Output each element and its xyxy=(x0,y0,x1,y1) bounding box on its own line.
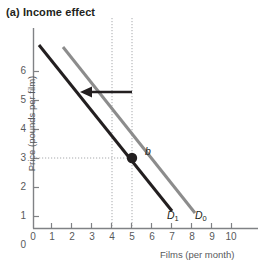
curve-label-d1-subscript: 1 xyxy=(175,214,179,223)
y-tick-label-3: 3 xyxy=(14,152,26,163)
point-b-marker xyxy=(127,153,137,163)
x-tick-label-4: 4 xyxy=(103,231,121,242)
y-tick-label-0: 0 xyxy=(14,239,26,250)
figure-income-effect: (a) Income effect xyxy=(0,0,268,266)
y-tick-label-6: 6 xyxy=(14,65,26,76)
x-tick-label-1: 1 xyxy=(43,231,61,242)
curve-label-d0-text: D xyxy=(195,209,203,221)
y-tick-label-1: 1 xyxy=(14,210,26,221)
x-tick-label-9: 9 xyxy=(203,231,221,242)
curve-label-d0-subscript: 0 xyxy=(203,214,207,223)
y-tick-label-2: 2 xyxy=(14,181,26,192)
point-b-label: b xyxy=(145,145,151,157)
x-axis-title: Films (per month) xyxy=(160,249,234,260)
curve-label-d1-text: D xyxy=(167,209,175,221)
curve-label-d0: D0 xyxy=(195,209,207,223)
demand-curve-d0 xyxy=(63,47,195,213)
x-tick-marks xyxy=(52,223,232,229)
x-tick-label-3: 3 xyxy=(83,231,101,242)
x-tick-label-2: 2 xyxy=(63,231,81,242)
curve-label-d1: D1 xyxy=(167,209,179,223)
y-tick-label-5: 5 xyxy=(14,94,26,105)
y-tick-label-4: 4 xyxy=(14,123,26,134)
shift-arrow xyxy=(80,87,132,98)
x-tick-label-5: 5 xyxy=(123,231,141,242)
x-tick-label-7: 7 xyxy=(163,231,181,242)
x-tick-label-10: 10 xyxy=(222,231,240,242)
y-axis-title: Price (pounds per film) xyxy=(26,69,37,179)
demand-curve-d1 xyxy=(39,45,172,211)
x-tick-label-6: 6 xyxy=(143,231,161,242)
x-tick-label-0: 0 xyxy=(24,231,42,242)
chart-canvas xyxy=(0,0,268,266)
x-tick-label-8: 8 xyxy=(183,231,201,242)
